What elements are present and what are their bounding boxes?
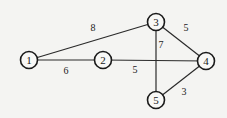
node-label: 2: [100, 54, 106, 66]
node-label: 5: [153, 94, 159, 106]
graph-node-2: 2: [95, 52, 112, 69]
edge-weight-label: 3: [182, 86, 187, 97]
edge-weight-label: 6: [64, 65, 69, 76]
edge-weight-label: 7: [159, 39, 164, 50]
edge-weight-label: 5: [184, 22, 189, 33]
graph-node-3: 3: [148, 14, 165, 31]
edge-3-4: [156, 22, 206, 61]
node-label: 3: [153, 16, 159, 28]
node-label: 1: [26, 54, 32, 66]
graph-node-5: 5: [148, 92, 165, 109]
graph-canvas: 865753 12345: [0, 0, 227, 118]
edge-weight-label: 8: [91, 22, 96, 33]
graph-node-4: 4: [198, 53, 215, 70]
graph-node-1: 1: [21, 52, 38, 69]
graph-diagram: 865753 12345: [0, 0, 227, 118]
edge-weight-label: 5: [133, 64, 138, 75]
edge-2-4: [103, 60, 206, 61]
node-label: 4: [203, 55, 209, 67]
edges-layer: [29, 22, 206, 100]
